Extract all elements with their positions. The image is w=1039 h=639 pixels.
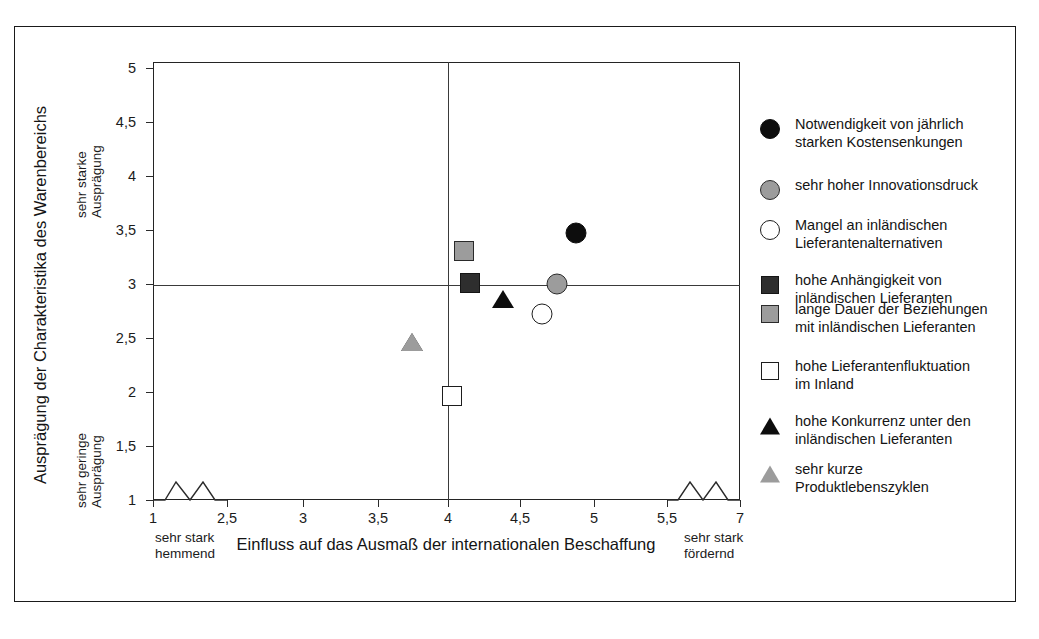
legend-marker-square-icon xyxy=(757,359,783,383)
x-tick-label: 5,5 xyxy=(657,510,677,526)
x-axis-title: Einfluss auf das Ausmaß der internationa… xyxy=(216,535,676,554)
y-tick-label: 2,5 xyxy=(116,330,136,346)
x-tick-label: 5 xyxy=(590,510,598,526)
x-tick xyxy=(667,500,668,507)
data-point-7 xyxy=(492,290,514,308)
y-tick xyxy=(146,446,153,447)
legend-item-6[interactable]: hohe Lieferantenfluktuation im Inland xyxy=(757,359,970,393)
legend-item-7[interactable]: hohe Konkurrenz unter den inländischen L… xyxy=(757,414,971,448)
legend-marker-triangle-icon xyxy=(757,462,783,486)
y-axis-title: Ausprägung der Charakteristika des Waren… xyxy=(31,60,61,530)
x-tick-label: 4,5 xyxy=(510,510,530,526)
x-tick-label: 3 xyxy=(299,510,307,526)
data-point-1 xyxy=(566,223,587,244)
legend-item-2[interactable]: sehr hoher Innovationsdruck xyxy=(757,178,978,202)
y-tick xyxy=(146,176,153,177)
x-tick-label: 3,5 xyxy=(368,510,388,526)
y-tick xyxy=(146,500,153,501)
data-point-6 xyxy=(442,386,462,406)
x-tick-label: 7 xyxy=(736,510,744,526)
legend-marker-circle-icon xyxy=(757,218,783,242)
legend-marker-square-icon xyxy=(757,273,783,297)
x-tick-label: 2,5 xyxy=(217,510,237,526)
legend-label-7: hohe Konkurrenz unter den inländischen L… xyxy=(783,413,971,448)
x-tick xyxy=(448,500,449,507)
y-tick xyxy=(146,122,153,123)
legend-marker-triangle-icon xyxy=(757,414,783,438)
data-point-5 xyxy=(454,241,474,261)
legend-label-8: sehr kurze Produktlebenszyklen xyxy=(783,461,929,496)
x-tick xyxy=(303,500,304,507)
legend-marker-circle-icon xyxy=(757,178,783,202)
x-axis-high-label: sehr stark fördernd xyxy=(684,530,743,562)
legend-marker-circle-icon xyxy=(757,117,783,141)
y-tick xyxy=(146,338,153,339)
y-tick-label: 5 xyxy=(128,60,136,76)
data-point-2 xyxy=(547,274,568,295)
x-tick xyxy=(520,500,521,507)
y-tick xyxy=(146,68,153,69)
y-tick-label: 1,5 xyxy=(116,438,136,454)
y-tick xyxy=(146,230,153,231)
y-tick-label: 2 xyxy=(128,384,136,400)
x-tick xyxy=(740,500,741,507)
x-tick-label: 1 xyxy=(149,510,157,526)
plot-area: 12,533,544,555,57 11,522,533,544,55 xyxy=(153,62,740,500)
legend-item-8[interactable]: sehr kurze Produktlebenszyklen xyxy=(757,462,929,496)
x-tick xyxy=(378,500,379,507)
data-point-8 xyxy=(401,333,423,351)
reference-line-horizontal xyxy=(153,285,740,286)
legend-item-3[interactable]: Mangel an inländischen Lieferantenaltern… xyxy=(757,218,947,252)
plot-frame xyxy=(153,62,740,500)
y-tick-label: 4 xyxy=(128,168,136,184)
y-tick-label: 4,5 xyxy=(116,114,136,130)
y-axis-title-container: Ausprägung der Charakteristika des Waren… xyxy=(37,60,67,530)
y-tick-label: 3,5 xyxy=(116,222,136,238)
x-tick xyxy=(594,500,595,507)
legend-label-1: Notwendigkeit von jährlich starken Koste… xyxy=(783,116,963,151)
legend-label-5: lange Dauer der Beziehungen mit inländis… xyxy=(783,301,988,336)
y-tick xyxy=(146,392,153,393)
y-tick xyxy=(146,284,153,285)
y-tick-label: 3 xyxy=(128,276,136,292)
legend-label-6: hohe Lieferantenfluktuation im Inland xyxy=(783,358,970,393)
x-tick xyxy=(227,500,228,507)
reference-line-vertical xyxy=(448,62,449,500)
x-axis-low-label: sehr stark hemmend xyxy=(155,530,215,562)
y-axis-low-label: sehr geringe Ausprägung xyxy=(74,433,104,508)
legend-marker-square-icon xyxy=(757,302,783,326)
y-tick-label: 1 xyxy=(128,492,136,508)
x-tick xyxy=(153,500,154,507)
legend-label-3: Mangel an inländischen Lieferantenaltern… xyxy=(783,217,947,252)
x-tick-label: 4 xyxy=(444,510,452,526)
data-point-4 xyxy=(460,273,480,293)
data-point-3 xyxy=(532,304,553,325)
chart-screenshot: Ausprägung der Charakteristika des Waren… xyxy=(0,0,1039,639)
legend-item-5[interactable]: lange Dauer der Beziehungen mit inländis… xyxy=(757,302,988,336)
y-axis-high-label: sehr starke Ausprägung xyxy=(74,145,104,218)
legend-item-1[interactable]: Notwendigkeit von jährlich starken Koste… xyxy=(757,117,963,151)
legend-label-2: sehr hoher Innovationsdruck xyxy=(783,177,978,195)
